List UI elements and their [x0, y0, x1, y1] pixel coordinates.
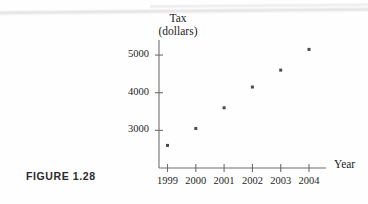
data-point: [166, 144, 169, 147]
data-point: [308, 48, 311, 51]
y-axis-tick-label: 4000: [115, 86, 149, 97]
axis-ticks-group: [155, 55, 309, 172]
axes-group: [159, 40, 326, 168]
y-axis-tick-label: 5000: [115, 48, 149, 59]
data-point: [223, 106, 226, 109]
figure-page: FIGURE 1.28 Tax (dollars) Year 300040005…: [0, 0, 368, 204]
data-point: [194, 127, 197, 130]
data-point: [251, 86, 254, 89]
data-point: [279, 69, 282, 72]
x-axis-tick-label: 2004: [292, 175, 326, 186]
y-axis-tick-label: 3000: [115, 123, 149, 134]
data-points-group: [166, 48, 311, 147]
scatter-plot: [0, 0, 368, 204]
